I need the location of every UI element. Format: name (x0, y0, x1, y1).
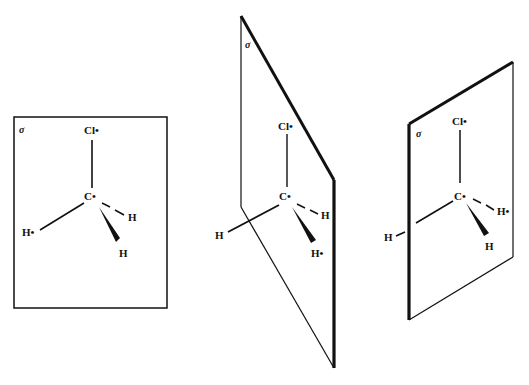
middle-plane-bottom-edge (241, 207, 334, 368)
middle-h-left-label: H (215, 229, 224, 241)
left-wedge-bond (99, 207, 120, 242)
middle-plane-sigma-label: σ (245, 39, 251, 50)
left-plane-frame (14, 117, 167, 308)
middle-dashed-bond-seg2 (310, 210, 318, 214)
right-h-right-label: H• (497, 205, 510, 217)
left-h-bottom-label: H (119, 247, 128, 259)
left-cl-label: Cl• (84, 124, 99, 136)
left-dashed-bond-seg1 (102, 203, 110, 207)
right-c-h-left-bond (416, 201, 453, 223)
right-panel: σ Cl• C• H H• H (384, 62, 513, 320)
left-c-h-left-bond (40, 203, 84, 230)
right-c-label: C• (454, 190, 466, 202)
right-h-bottom-label: H (485, 240, 494, 252)
right-plane-bottom-edge (409, 257, 513, 320)
middle-dashed-bond-seg1 (297, 204, 305, 208)
left-c-label: C• (84, 190, 96, 202)
right-h-left-bond-behind (396, 232, 405, 236)
left-h-left-label: H• (22, 226, 35, 238)
middle-cl-label: Cl• (278, 120, 293, 132)
right-plane-sigma-label: σ (416, 128, 422, 139)
middle-c-label: C• (279, 190, 291, 202)
left-h-right-label: H (128, 211, 137, 223)
left-panel: σ Cl• C• H• H H (14, 117, 167, 308)
right-cl-label: Cl• (452, 115, 467, 127)
left-plane-sigma-label: σ (19, 124, 25, 135)
left-dashed-bond-seg2 (115, 210, 124, 215)
right-h-left-label: H (384, 231, 393, 243)
middle-h-right-label: H (321, 209, 330, 221)
right-wedge-bond (466, 203, 489, 236)
right-dashed-bond-seg2 (486, 205, 494, 210)
molecule-planes-figure: σ Cl• C• H• H H σ Cl• C• H H H• σ Cl• (0, 0, 529, 385)
middle-wedge-bond (292, 207, 316, 243)
middle-panel: σ Cl• C• H H H• (215, 16, 334, 368)
right-dashed-bond-seg1 (473, 199, 481, 203)
middle-h-bottom-label: H• (311, 247, 324, 259)
